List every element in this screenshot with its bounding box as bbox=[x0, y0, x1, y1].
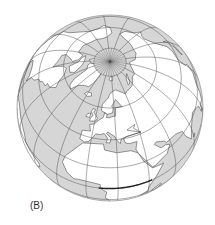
panel-label: (B) bbox=[30, 200, 43, 211]
orthographic-globe-figure bbox=[0, 0, 215, 225]
north-pole-marker bbox=[109, 61, 111, 63]
